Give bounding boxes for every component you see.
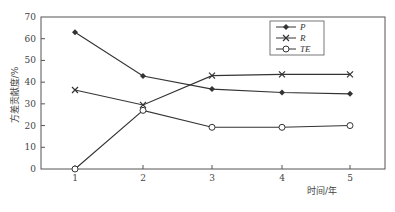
y-tick-label: 70 — [25, 12, 37, 22]
y-tick-label: 60 — [25, 34, 37, 44]
diamond-marker-icon — [279, 90, 285, 96]
circle-marker-icon — [140, 107, 146, 113]
circle-marker-icon — [72, 166, 78, 172]
series-te — [72, 107, 353, 172]
diamond-marker-icon — [140, 73, 146, 79]
x-tick-label: 4 — [279, 173, 285, 183]
y-tick-label: 40 — [25, 77, 37, 87]
x-tick-label: 3 — [209, 173, 215, 183]
circle-marker-icon — [279, 124, 285, 130]
y-tick-label: 30 — [25, 99, 37, 109]
legend-label: P — [299, 22, 306, 32]
x-tick-label: 5 — [347, 173, 353, 183]
plot-border — [41, 17, 385, 169]
y-tick-label: 20 — [25, 121, 37, 131]
y-axis-ticks: 010203040506070 — [25, 12, 45, 174]
x-tick-label: 1 — [72, 173, 78, 183]
series-line — [75, 110, 350, 169]
y-tick-label: 10 — [25, 142, 37, 152]
diamond-marker-icon — [347, 91, 353, 97]
circle-marker-icon — [283, 46, 289, 52]
diamond-marker-icon — [72, 29, 78, 35]
y-tick-label: 50 — [25, 55, 37, 65]
y-tick-label: 0 — [30, 164, 36, 174]
x-tick-label: 2 — [140, 173, 146, 183]
y-axis-label: 方差贡献度/% — [9, 66, 20, 123]
diamond-marker-icon — [209, 86, 215, 92]
x-axis-label: 时间/年 — [307, 185, 337, 196]
circle-marker-icon — [209, 124, 215, 130]
legend-label: TE — [300, 44, 311, 54]
line-chart: 010203040506070 12345 PRTE 方差贡献度/% 时间/年 — [0, 0, 395, 212]
legend: PRTE — [270, 21, 324, 55]
x-axis-ticks: 12345 — [72, 165, 353, 183]
legend-label: R — [299, 33, 306, 43]
plot-frame — [41, 17, 385, 169]
circle-marker-icon — [347, 123, 353, 129]
